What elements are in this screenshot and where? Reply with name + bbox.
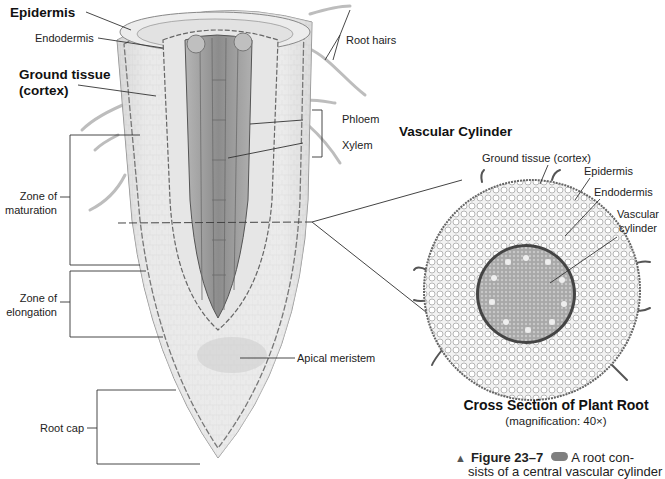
label-zone-elongation-1: Zone of — [5, 292, 57, 305]
label-root-cap: Root cap — [40, 422, 84, 435]
label-cs-epidermis: Epidermis — [584, 165, 633, 178]
label-xylem: Xylem — [342, 139, 373, 152]
cross-section — [414, 170, 650, 400]
label-ground-tissue-2: (cortex) — [19, 83, 69, 99]
figure-text-1: A root con- — [571, 450, 634, 465]
label-cs-vascular-2: cylinder — [612, 222, 664, 235]
label-ground-tissue-1: Ground tissue — [19, 67, 111, 83]
label-apical-meristem: Apical meristem — [297, 352, 375, 365]
label-epidermis: Epidermis — [10, 5, 75, 21]
label-cs-ground-tissue: Ground tissue (cortex) — [482, 152, 591, 165]
label-cs-vascular-1: Vascular — [612, 208, 664, 221]
figure-caption: ▲Figure 23–7A root con- — [455, 450, 634, 465]
label-endodermis: Endodermis — [35, 32, 94, 45]
magnification-text: (magnification: 40×) — [456, 415, 656, 427]
figure-text-2: sists of a central vascular cylinder — [468, 464, 662, 479]
cross-section-title: Cross Section of Plant Root — [456, 397, 656, 413]
online-link-icon — [551, 452, 568, 461]
label-zone-elongation-2: elongation — [0, 306, 57, 319]
label-vascular-cylinder: Vascular Cylinder — [399, 124, 512, 140]
figure-number: Figure 23–7 — [471, 450, 543, 465]
label-cs-endodermis: Endodermis — [594, 186, 653, 199]
label-phloem: Phloem — [342, 113, 379, 126]
triangle-icon: ▲ — [455, 452, 466, 464]
label-zone-maturation-1: Zone of — [5, 190, 57, 203]
label-zone-maturation-2: maturation — [0, 204, 57, 217]
label-root-hairs: Root hairs — [346, 34, 396, 47]
